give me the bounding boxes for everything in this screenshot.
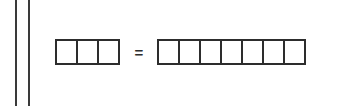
left-unit-box xyxy=(76,39,99,65)
diagram-canvas: = xyxy=(0,0,340,106)
right-unit-box xyxy=(178,39,201,65)
right-unit-box xyxy=(157,39,180,65)
left-unit-box xyxy=(97,39,120,65)
margin-rule-line-1 xyxy=(15,0,17,106)
right-unit-box xyxy=(199,39,222,65)
right-unit-box xyxy=(283,39,306,65)
right-unit-box xyxy=(262,39,285,65)
equals-sign: = xyxy=(131,39,147,65)
left-unit-row xyxy=(55,39,120,65)
right-unit-box xyxy=(220,39,243,65)
margin-rule-line-2 xyxy=(28,0,30,106)
left-unit-boxes xyxy=(55,39,120,65)
right-unit-box xyxy=(241,39,264,65)
left-unit-box xyxy=(55,39,78,65)
right-unit-row xyxy=(157,39,306,65)
right-unit-boxes xyxy=(157,39,306,65)
